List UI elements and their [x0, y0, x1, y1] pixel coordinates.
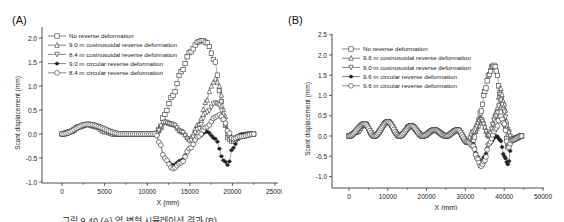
x-tick-label: 10000: [138, 188, 156, 195]
legend-item: 9.0 m circular reverse deformation: [69, 60, 163, 67]
x-tick-label: 20000: [418, 193, 436, 200]
y-tick-label: -1.0: [316, 173, 328, 180]
y-tick-label: 0.0: [28, 131, 37, 138]
figure-caption: 그림 9.40 (A) 역 변형 시뮬레이션 결과 (B) ...: [62, 214, 227, 222]
y-tick-label: 1.5: [318, 72, 327, 79]
x-axis-label: X (mm): [157, 199, 180, 207]
x-tick-label: 5000: [97, 188, 112, 195]
legend-item: 8.4 m cosinusoidal reverse deformation: [69, 51, 178, 58]
legend-item: 9.6 m circular reverse deformation: [363, 73, 457, 80]
chart-panel-b: (B) -1.0-0.50.00.51.01.52.02.50100002000…: [282, 0, 564, 210]
x-tick-label: 10000: [379, 193, 397, 200]
y-tick-label: 1.0: [28, 83, 37, 90]
y-tick-label: 1.5: [28, 59, 37, 66]
legend: No reverse deformation9.6 m cosinusoidal…: [342, 45, 472, 89]
x-axis-label: X (mm): [435, 204, 458, 210]
x-tick-label: 30000: [456, 193, 474, 200]
y-tick-label: -0.5: [316, 153, 328, 160]
y-tick-label: -0.5: [26, 155, 38, 162]
x-tick-label: 50000: [534, 193, 552, 200]
x-tick-label: 40000: [495, 193, 513, 200]
chart-a-plot: -1.0-0.50.00.51.01.52.005000100001500020…: [0, 0, 282, 210]
legend: No reverse deformation9.0 m cosinusoidal…: [48, 32, 178, 76]
x-tick-label: 25000: [266, 188, 282, 195]
legend-item: 8.4 m circular reverse deformation: [69, 69, 163, 76]
y-tick-label: 2.5: [318, 31, 327, 38]
y-tick-label: -1.0: [26, 179, 38, 186]
y-axis-label: Scant displacement (mm): [304, 82, 312, 156]
y-tick-label: 1.0: [318, 92, 327, 99]
legend-item: No reverse deformation: [363, 45, 428, 52]
x-tick-label: 0: [347, 193, 351, 200]
y-tick-label: 0.5: [28, 107, 37, 114]
y-tick-label: 0.5: [318, 112, 327, 119]
legend-item: 9.6 m cosinusoidal reverse deformation: [363, 54, 472, 61]
chart-panel-a: (A) -1.0-0.50.00.51.01.52.00500010000150…: [0, 0, 282, 210]
chart-b-plot: -1.0-0.50.00.51.01.52.02.501000020000300…: [282, 0, 564, 210]
series-circle: [347, 114, 524, 169]
y-tick-label: 2.0: [28, 35, 37, 42]
legend-item: 9.0 m cosinusoidal reverse deformation: [363, 64, 472, 71]
y-tick-label: 0.0: [318, 133, 327, 140]
x-tick-label: 0: [60, 188, 64, 195]
x-tick-label: 15000: [181, 188, 199, 195]
legend-item: 9.0 m cosinusoidal reverse deformation: [69, 41, 178, 48]
y-tick-label: 2.0: [318, 52, 327, 59]
y-axis-label: Scant displacement (mm): [14, 76, 22, 150]
legend-item: 9.6 m circular reverse deformation: [363, 82, 457, 89]
x-tick-label: 20000: [223, 188, 241, 195]
legend-item: No reverse deformation: [69, 32, 134, 39]
